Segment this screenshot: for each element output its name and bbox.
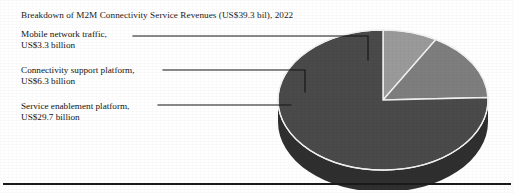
callout-label: Mobile network traffic,: [21, 29, 107, 40]
footer-divider: [3, 183, 511, 185]
callout-value: US$6.3 billion: [21, 76, 135, 87]
callout-connectivity-support-platform: Connectivity support platform, US$6.3 bi…: [21, 65, 135, 87]
callout-value: US$29.7 billion: [21, 112, 129, 123]
callout-mobile-network-traffic: Mobile network traffic, US$3.3 billion: [21, 29, 107, 51]
callout-label: Service enablement platform,: [21, 101, 129, 112]
chart-figure: Breakdown of M2M Connectivity Service Re…: [0, 0, 514, 193]
callout-service-enablement-platform: Service enablement platform, US$29.7 bil…: [21, 101, 129, 123]
callout-label: Connectivity support platform,: [21, 65, 135, 76]
callout-value: US$3.3 billion: [21, 40, 107, 51]
